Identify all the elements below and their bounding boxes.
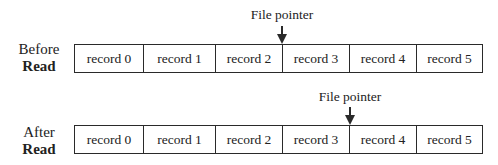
after-record-1: record 1 [144, 126, 216, 153]
after-label-line2: Read [14, 141, 64, 158]
after-record-row: record 0 record 1 record 2 record 3 reco… [74, 125, 483, 154]
after-record-3: record 3 [283, 126, 350, 153]
before-record-5: record 5 [417, 45, 482, 72]
after-record-0: record 0 [75, 126, 144, 153]
before-record-row: record 0 record 1 record 2 record 3 reco… [74, 44, 483, 73]
before-record-3: record 3 [283, 45, 350, 72]
before-record-4: record 4 [350, 45, 417, 72]
before-file-pointer-label: File pointer [251, 7, 314, 23]
after-record-5: record 5 [417, 126, 482, 153]
after-file-pointer-label: File pointer [319, 89, 382, 105]
before-label-line2: Read [14, 58, 64, 75]
before-read-label: Before Read [14, 41, 64, 75]
before-record-2: record 2 [216, 45, 283, 72]
after-label-line1: After [14, 124, 64, 141]
before-record-0: record 0 [75, 45, 144, 72]
after-record-2: record 2 [216, 126, 283, 153]
after-record-4: record 4 [350, 126, 417, 153]
after-read-label: After Read [14, 124, 64, 158]
before-label-line1: Before [14, 41, 64, 58]
before-record-1: record 1 [144, 45, 216, 72]
